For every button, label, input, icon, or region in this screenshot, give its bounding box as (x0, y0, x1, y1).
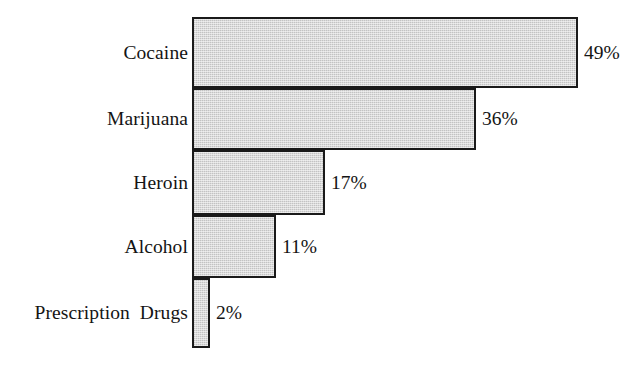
category-label-prescription-drugs: Prescription Drugs (34, 303, 188, 323)
bar-chart: Cocaine 49% Marijuana 36% Heroin 17% Alc… (0, 0, 640, 367)
bar-alcohol (192, 215, 276, 278)
value-label-cocaine: 49% (584, 43, 620, 63)
category-label-heroin: Heroin (133, 173, 188, 193)
bar-cocaine (192, 17, 578, 88)
category-label-marijuana: Marijuana (107, 109, 188, 129)
bar-prescription-drugs (192, 278, 210, 348)
category-label-alcohol: Alcohol (124, 237, 188, 257)
value-label-marijuana: 36% (482, 109, 518, 129)
category-label-cocaine: Cocaine (123, 43, 188, 63)
value-label-prescription-drugs: 2% (216, 303, 242, 323)
value-label-heroin: 17% (331, 173, 367, 193)
bar-heroin (192, 150, 325, 215)
plot-area: Cocaine 49% Marijuana 36% Heroin 17% Alc… (0, 0, 640, 367)
bar-marijuana (192, 88, 476, 150)
value-label-alcohol: 11% (282, 237, 317, 257)
